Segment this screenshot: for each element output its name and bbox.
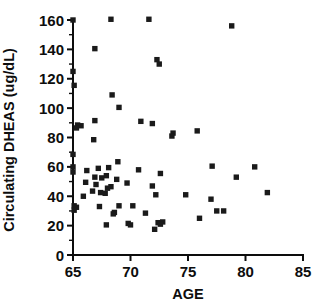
data-point-marker xyxy=(81,194,86,199)
data-point-marker xyxy=(70,152,75,157)
x-tick-label: 80 xyxy=(237,263,254,280)
scatter-plot-figure: 020406080100120140160 6570758085 AGE Cir… xyxy=(0,0,321,307)
data-point-marker xyxy=(104,222,109,227)
y-tick-label: 40 xyxy=(47,188,64,205)
y-tick-label: 100 xyxy=(39,100,64,117)
data-point-marker xyxy=(96,166,101,171)
data-point-marker xyxy=(136,167,141,172)
data-point-marker xyxy=(104,173,109,178)
data-point-marker xyxy=(208,196,213,201)
data-point-marker xyxy=(108,17,113,22)
data-point-marker xyxy=(115,159,120,164)
data-point-marker xyxy=(152,227,157,232)
data-point-marker xyxy=(93,182,98,187)
data-point-marker xyxy=(106,165,111,170)
data-point-marker xyxy=(98,190,103,195)
data-point-marker xyxy=(70,69,75,74)
data-point-marker xyxy=(229,23,234,28)
x-tick-label: 70 xyxy=(122,263,139,280)
data-point-marker xyxy=(150,183,155,188)
data-point-marker xyxy=(92,174,97,179)
data-point-marker xyxy=(150,121,155,126)
data-point-marker xyxy=(169,133,174,138)
x-axis-title: AGE xyxy=(172,286,204,302)
data-point-marker xyxy=(116,105,121,110)
x-tick-label: 65 xyxy=(65,263,82,280)
data-point-marker xyxy=(91,137,96,142)
data-point-marker xyxy=(209,163,214,168)
data-point-marker xyxy=(195,128,200,133)
data-point-marker xyxy=(128,222,133,227)
data-point-marker xyxy=(74,125,79,130)
data-point-marker xyxy=(138,119,143,124)
data-point-marker xyxy=(158,221,163,226)
data-point-marker xyxy=(143,210,148,215)
data-point-marker xyxy=(157,61,162,66)
y-tick-label: 60 xyxy=(47,158,64,175)
data-point-marker xyxy=(83,180,88,185)
data-point-marker xyxy=(265,190,270,195)
y-axis-title: Circulating DHEAS (ug/dL) xyxy=(1,48,17,232)
y-tick-label: 160 xyxy=(39,12,64,29)
data-point-marker xyxy=(71,208,76,213)
x-tick-label: 85 xyxy=(295,263,312,280)
data-point-marker xyxy=(183,192,188,197)
data-point-marker xyxy=(153,192,158,197)
data-point-marker xyxy=(84,168,89,173)
data-point-marker xyxy=(197,216,202,221)
data-point-marker xyxy=(124,180,129,185)
data-point-marker xyxy=(214,208,219,213)
y-tick-label: 0 xyxy=(56,247,64,264)
data-point-marker xyxy=(114,177,119,182)
data-point-marker xyxy=(130,203,135,208)
data-point-marker xyxy=(70,17,75,22)
data-point-marker xyxy=(116,203,121,208)
data-point-marker xyxy=(92,46,97,51)
y-tick-label: 140 xyxy=(39,41,64,58)
x-tick-label: 75 xyxy=(180,263,197,280)
data-point-marker xyxy=(99,175,104,180)
y-tick-label: 120 xyxy=(39,70,64,87)
data-point-marker xyxy=(78,123,83,128)
data-point-marker xyxy=(234,174,239,179)
data-point-marker xyxy=(70,169,75,174)
data-point-marker xyxy=(221,208,226,213)
y-tick-label: 20 xyxy=(47,217,64,234)
chart-canvas: 020406080100120140160 6570758085 AGE Cir… xyxy=(0,0,321,307)
data-point-marker xyxy=(103,191,108,196)
data-point-marker xyxy=(252,164,257,169)
data-point-marker xyxy=(90,188,95,193)
y-tick-label: 80 xyxy=(47,129,64,146)
data-point-marker xyxy=(92,118,97,123)
data-point-marker xyxy=(71,83,76,88)
data-point-marker xyxy=(109,92,114,97)
data-point-marker xyxy=(105,185,110,190)
data-point-marker xyxy=(97,204,102,209)
data-point-marker xyxy=(70,164,75,169)
data-point-marker xyxy=(158,171,163,176)
data-point-marker xyxy=(146,17,151,22)
data-point-marker xyxy=(111,211,116,216)
